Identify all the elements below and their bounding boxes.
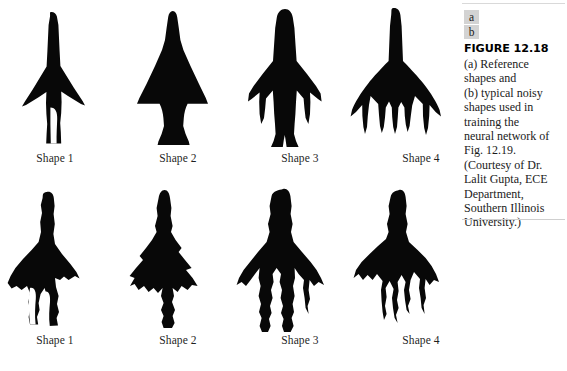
caption-line: training the (464, 115, 567, 129)
figure-panel: Shape 1 Shape 2 Shape 3 (0, 0, 455, 371)
caption-line: shapes and (464, 71, 567, 85)
caption-line: Department, (464, 187, 567, 201)
noisy-shape-2-delta (115, 186, 229, 334)
reference-shape-3-aircraft (228, 4, 342, 152)
panel-key-b: b (464, 25, 479, 39)
noisy-shape-4-trident (341, 186, 455, 334)
noisy-shape-3-aircraft (228, 186, 342, 334)
caption-rule-top (462, 3, 565, 4)
shape-label: Shape 3 (243, 151, 357, 165)
figure-title: FIGURE 12.18 (464, 42, 567, 55)
shape-cell-b2: Shape 2 (115, 186, 229, 361)
panel-key-a: a (464, 10, 479, 24)
caption-line: University.) (464, 215, 567, 229)
shape-label: Shape 2 (121, 333, 235, 347)
shape-cell-a3: Shape 3 (228, 4, 342, 179)
noisy-shapes-row: Shape 1 Shape 2 Shape 3 (0, 186, 455, 361)
shape-cell-a1: Shape 1 (2, 4, 116, 179)
shape-cell-a2: Shape 2 (115, 4, 229, 179)
shape-label: Shape 4 (364, 151, 478, 165)
shape-label: Shape 4 (364, 333, 478, 347)
shape-label: Shape 1 (0, 151, 112, 165)
caption-column: a b FIGURE 12.18 (a) Reference shapes an… (462, 0, 567, 371)
shape-label: Shape 1 (0, 333, 112, 347)
panel-key-legend: a b (464, 10, 479, 40)
noisy-shape-1-rocket (2, 186, 116, 334)
caption-line: Lalit Gupta, ECE (464, 172, 567, 186)
caption-rule-bottom (462, 219, 565, 220)
figure-caption: (a) Reference shapes and (b) typical noi… (464, 57, 567, 230)
caption-line: (b) typical noisy (464, 86, 567, 100)
shape-label: Shape 3 (243, 333, 357, 347)
reference-shapes-row: Shape 1 Shape 2 Shape 3 (0, 4, 455, 179)
reference-shape-2-delta (115, 4, 229, 152)
shape-cell-b3: Shape 3 (228, 186, 342, 361)
noisy-shape-cell-b4: Shape 4 (341, 186, 455, 361)
shape-cell-b1: Shape 1 (2, 186, 116, 361)
reference-shape-4-trident (341, 4, 455, 152)
caption-line: Fig. 12.19. (464, 143, 567, 157)
shape-label: Shape 2 (121, 151, 235, 165)
caption-line: (a) Reference (464, 57, 567, 71)
caption-line: (Courtesy of Dr. (464, 158, 567, 172)
reference-shape-1-rocket (2, 4, 116, 152)
caption-line: Southern Illinois (464, 201, 567, 215)
shape-cell-a4: Shape 4 (341, 4, 455, 179)
caption-line: shapes used in (464, 100, 567, 114)
caption-line: neural network of (464, 129, 567, 143)
